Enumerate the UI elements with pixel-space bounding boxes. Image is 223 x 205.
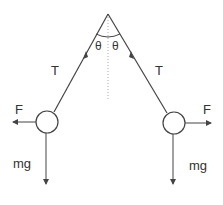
string-left bbox=[54, 14, 108, 112]
tension-arrow-right-icon bbox=[129, 51, 134, 59]
bob-right bbox=[163, 112, 185, 134]
weight-label-right: mg bbox=[189, 158, 207, 173]
force-label-left: F bbox=[15, 102, 23, 117]
angle-label-left: θ bbox=[95, 39, 102, 53]
tension-label-left: T bbox=[51, 63, 59, 78]
force-label-right: F bbox=[203, 102, 211, 117]
tension-label-right: T bbox=[155, 63, 163, 78]
weight-label-left: mg bbox=[13, 156, 31, 171]
bob-left bbox=[36, 111, 58, 133]
angle-label-right: θ bbox=[112, 39, 119, 53]
pendulum-diagram: θ θ T T F F mg mg bbox=[0, 0, 223, 205]
